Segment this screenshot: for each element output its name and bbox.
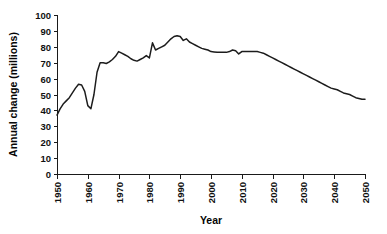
y-tick-label: 10: [40, 153, 51, 164]
x-tick-label: 1990: [175, 182, 186, 203]
y-tick-label: 40: [40, 105, 51, 116]
y-tick-label: 80: [40, 42, 51, 53]
y-tick-label: 100: [35, 10, 51, 21]
y-tick-label: 30: [40, 121, 51, 132]
x-tick-label: 1970: [114, 182, 125, 203]
data-series-line: [57, 36, 365, 116]
x-axis-ticks: [58, 175, 366, 179]
chart-figure: 0102030405060708090100 19501960197019801…: [0, 0, 387, 234]
x-tick-label: 2010: [237, 182, 248, 203]
x-tick-label: 1960: [83, 182, 94, 203]
y-axis-ticks: [54, 16, 58, 175]
y-tick-label: 20: [40, 137, 51, 148]
x-tick-label: 2040: [329, 182, 340, 203]
x-tick-label: 1980: [144, 182, 155, 203]
y-axis-title: Annual change (millions): [7, 32, 19, 157]
y-tick-label: 90: [40, 26, 51, 37]
x-axis-tick-labels: 1950196019701980199020002010202020302040…: [52, 182, 371, 203]
y-tick-label: 60: [40, 74, 51, 85]
x-tick-label: 2020: [268, 182, 279, 203]
y-tick-label: 0: [46, 169, 51, 180]
line-chart: 0102030405060708090100 19501960197019801…: [0, 0, 387, 234]
x-tick-label: 2050: [360, 182, 371, 203]
y-tick-label: 70: [40, 58, 51, 69]
x-tick-label: 1950: [52, 182, 63, 203]
x-tick-label: 2000: [206, 182, 217, 203]
y-axis-tick-labels: 0102030405060708090100: [35, 10, 51, 180]
y-tick-label: 50: [40, 90, 51, 101]
x-tick-label: 2030: [298, 182, 309, 203]
x-axis-title: Year: [200, 214, 222, 226]
